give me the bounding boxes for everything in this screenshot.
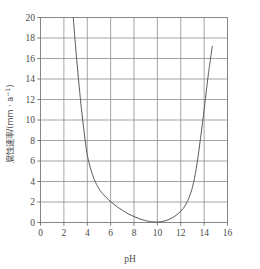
x-tick-label: 12 xyxy=(176,228,186,238)
x-axis-title: pH xyxy=(124,254,136,264)
y-tick-label: 20 xyxy=(26,13,36,23)
y-tick-label: 6 xyxy=(30,156,35,166)
x-tick-label: 14 xyxy=(199,228,209,238)
x-tick-label: 0 xyxy=(38,228,43,238)
chart-canvas: 0246810121416 02468101214161820 pH 腐蚀速率/… xyxy=(0,0,260,269)
y-tick-label: 14 xyxy=(26,74,36,84)
y-tick-label: 0 xyxy=(30,218,35,228)
y-tick-label: 16 xyxy=(26,54,36,64)
y-tick-label: 8 xyxy=(30,136,35,146)
x-tick-label: 6 xyxy=(108,228,113,238)
x-tick-label: 4 xyxy=(85,228,90,238)
y-tick-label: 4 xyxy=(30,177,35,187)
x-tick-label: 8 xyxy=(132,228,137,238)
y-tick-label: 12 xyxy=(26,95,36,105)
y-tick-label: 18 xyxy=(26,33,36,43)
x-tick-label: 10 xyxy=(153,228,163,238)
y-tick-label: 10 xyxy=(26,115,36,125)
x-tick-label: 16 xyxy=(223,228,233,238)
y-tick-label: 2 xyxy=(30,197,35,207)
x-tick-label: 2 xyxy=(62,228,67,238)
chart-figure: 0246810121416 02468101214161820 pH 腐蚀速率/… xyxy=(0,0,260,269)
